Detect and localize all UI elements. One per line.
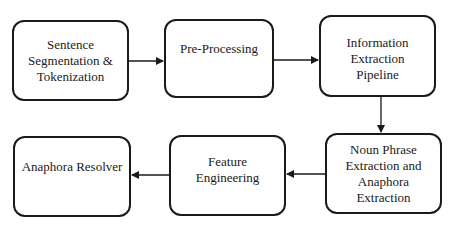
connector-layer [0,0,454,228]
